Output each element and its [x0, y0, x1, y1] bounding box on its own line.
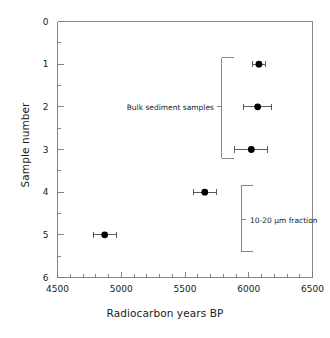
y-tick-label: 0: [0, 17, 49, 27]
x-tick-label: 6500: [301, 284, 324, 294]
y-tick-label: 3: [0, 145, 49, 155]
annotation-label-bulk: Bulk sediment samples: [127, 102, 214, 111]
x-tick-label: 5500: [174, 284, 197, 294]
y-tick-label: 6: [0, 273, 49, 283]
radiocarbon-scatter-figure: Radiocarbon years BP Sample number 45005…: [0, 0, 330, 338]
y-tick-label: 2: [0, 102, 49, 112]
x-axis-title: Radiocarbon years BP: [0, 307, 330, 319]
data-point-marker: [254, 103, 261, 110]
y-tick-label: 1: [0, 59, 49, 69]
y-tick-label: 4: [0, 187, 49, 197]
data-point-marker: [248, 146, 255, 153]
data-point-marker: [256, 61, 263, 68]
data-point-marker: [101, 231, 108, 238]
annotation-label-fraction: 10-20 µm fraction: [250, 215, 317, 224]
x-tick-label: 6000: [237, 284, 260, 294]
y-tick-label: 5: [0, 230, 49, 240]
data-point-marker: [201, 189, 208, 196]
x-tick-label: 4500: [46, 284, 69, 294]
x-tick-label: 5000: [110, 284, 133, 294]
